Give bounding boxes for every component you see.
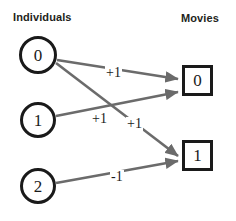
individual-node-2-label: 2 [34,178,43,195]
edge-weight-individual0-movie1: +1 [126,117,143,131]
individual-node-2[interactable]: 2 [20,168,56,204]
individual-node-0-label: 0 [34,47,43,64]
edge-weight-individual0-movie0: +1 [105,66,122,80]
edge-weight-individual2-movie1: -1 [110,170,124,184]
individual-node-0[interactable]: 0 [19,36,57,74]
edge-weight-individual1-movie0: +1 [91,112,108,126]
bipartite-graph-diagram: Individuals Movies 0 1 2 0 1 +1 +1 +1 -1 [0,0,236,221]
individual-node-1[interactable]: 1 [20,102,56,138]
edge-ind1-mov0 [56,92,178,116]
individual-node-1-label: 1 [34,112,43,129]
movie-node-0[interactable]: 0 [182,65,213,96]
movie-node-1-label: 1 [193,147,202,164]
movie-node-1[interactable]: 1 [182,140,213,171]
movie-node-0-label: 0 [193,72,202,89]
